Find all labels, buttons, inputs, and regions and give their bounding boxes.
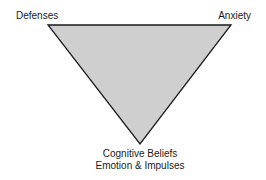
- vertex-label-bottom: Cognitive Beliefs Emotion & Impulses: [0, 148, 266, 172]
- vertex-label-anxiety: Anxiety: [218, 10, 251, 22]
- inverted-triangle: [48, 25, 231, 144]
- bottom-label-line2: Emotion & Impulses: [0, 160, 266, 172]
- vertex-label-defenses: Defenses: [16, 10, 58, 22]
- bottom-label-line1: Cognitive Beliefs: [0, 148, 266, 160]
